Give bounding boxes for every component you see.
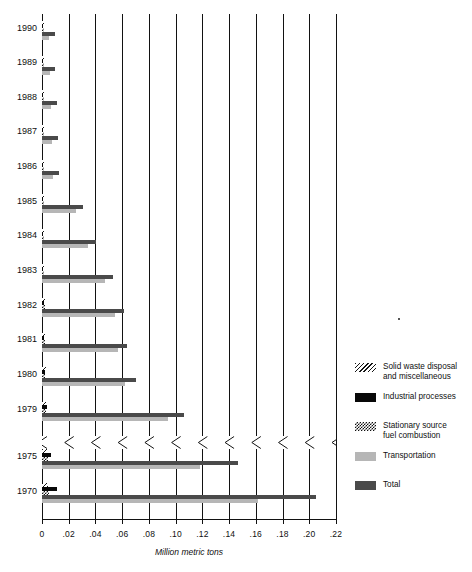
legend-swatch-checkerboard <box>355 422 376 431</box>
x-axis-tick-label: .14 <box>223 529 235 539</box>
legend-label-line2: fuel combustion <box>383 431 470 441</box>
chart-bar-group: 1981 <box>42 332 336 349</box>
axis-break-zigzag <box>42 436 336 449</box>
x-axis-tick-label: .08 <box>143 529 155 539</box>
chart-bar-group: 1979 <box>42 401 336 418</box>
legend-item[interactable]: Transportation <box>355 451 470 469</box>
x-axis-tick <box>95 520 96 524</box>
chart-bar-group: 1980 <box>42 366 336 383</box>
x-axis-tick <box>202 520 203 524</box>
bar-segment <box>42 382 125 386</box>
x-axis-tick <box>42 520 43 524</box>
gridline <box>336 14 337 520</box>
x-axis-tick <box>229 520 230 524</box>
bar-segment <box>42 417 168 421</box>
y-axis-year-label: 1970 <box>17 486 37 496</box>
legend-label: Transportation <box>383 451 470 461</box>
stray-mark <box>398 318 400 320</box>
legend-swatch-diagonal-hatch <box>355 363 376 372</box>
y-axis-year-label: 1982 <box>17 300 37 310</box>
y-axis-year-label: 1975 <box>17 451 37 461</box>
x-axis-tick <box>149 520 150 524</box>
bar-segment <box>42 465 200 469</box>
legend-label: Solid waste disposal <box>383 362 470 372</box>
chart-bar-group: 1984 <box>42 228 336 245</box>
legend-swatch-dark-gray <box>355 481 376 490</box>
plot-area: 0.02.04.06.08.10.12.14.16.18.20.22199019… <box>42 14 336 520</box>
chart-bar-group: 1989 <box>42 55 336 72</box>
x-axis-tick-label: .22 <box>330 529 342 539</box>
legend-item[interactable]: Total <box>355 480 470 498</box>
x-axis-tick <box>256 520 257 524</box>
y-axis-year-label: 1984 <box>17 230 37 240</box>
x-axis-tick-label: .10 <box>169 529 181 539</box>
legend-item[interactable]: Solid waste disposaland miscellaneous <box>355 362 470 381</box>
x-axis-title: Million metric tons <box>42 547 336 557</box>
chart-bar-group: 1988 <box>42 89 336 106</box>
chart-bar-group: 1982 <box>42 297 336 314</box>
x-axis-tick <box>176 520 177 524</box>
bar-segment <box>42 499 258 503</box>
bar-segment <box>42 209 76 213</box>
x-axis-tick-label: .12 <box>196 529 208 539</box>
y-axis-year-label: 1981 <box>17 334 37 344</box>
x-axis-tick-label: .04 <box>89 529 101 539</box>
y-axis-year-label: 1989 <box>17 57 37 67</box>
chart-legend: Solid waste disposaland miscellaneousInd… <box>355 362 470 509</box>
y-axis-year-label: 1987 <box>17 126 37 136</box>
x-axis-tick <box>122 520 123 524</box>
x-axis-tick-label: .02 <box>63 529 75 539</box>
legend-label: Total <box>383 480 470 490</box>
y-axis-year-label: 1990 <box>17 23 37 33</box>
y-axis-year-label: 1980 <box>17 369 37 379</box>
chart-root: 0.02.04.06.08.10.12.14.16.18.20.22199019… <box>0 0 472 572</box>
bar-segment <box>42 313 115 317</box>
legend-swatch-solid-black <box>355 393 376 402</box>
bar-segment <box>42 348 118 352</box>
x-axis-tick <box>283 520 284 524</box>
bar-segment <box>42 105 51 109</box>
x-axis-tick-label: .18 <box>276 529 288 539</box>
bar-segment <box>42 175 53 179</box>
chart-bar-group: 1975 <box>42 449 336 466</box>
bar-segment <box>42 140 52 144</box>
x-axis-tick-label: .06 <box>116 529 128 539</box>
legend-swatch-light-gray <box>355 452 376 461</box>
x-axis-tick <box>309 520 310 524</box>
bar-segment <box>42 71 50 75</box>
legend-item[interactable]: Stationary sourcefuel combustion <box>355 421 470 440</box>
chart-bar-group: 1990 <box>42 20 336 37</box>
chart-bar-group: 1970 <box>42 483 336 500</box>
x-axis-tick-label: .20 <box>303 529 315 539</box>
chart-bar-group: 1985 <box>42 193 336 210</box>
x-axis-tick-label: .16 <box>250 529 262 539</box>
bar-segment <box>42 244 88 248</box>
y-axis-year-label: 1985 <box>17 196 37 206</box>
legend-label: Stationary source <box>383 421 470 431</box>
legend-label-line2: and miscellaneous <box>383 372 470 382</box>
chart-bar-group: 1986 <box>42 159 336 176</box>
y-axis-year-label: 1983 <box>17 265 37 275</box>
bar-segment <box>42 36 49 40</box>
x-axis-tick-label: 0 <box>40 529 45 539</box>
legend-label: Industrial processes <box>383 392 470 402</box>
chart-bar-group: 1987 <box>42 124 336 141</box>
x-axis-line <box>42 519 336 520</box>
legend-item[interactable]: Industrial processes <box>355 392 470 410</box>
chart-bar-group: 1983 <box>42 263 336 280</box>
x-axis-tick <box>69 520 70 524</box>
y-axis-year-label: 1979 <box>17 404 37 414</box>
y-axis-year-label: 1988 <box>17 92 37 102</box>
x-axis-tick <box>336 520 337 524</box>
bar-segment <box>42 279 105 283</box>
y-axis-year-label: 1986 <box>17 161 37 171</box>
